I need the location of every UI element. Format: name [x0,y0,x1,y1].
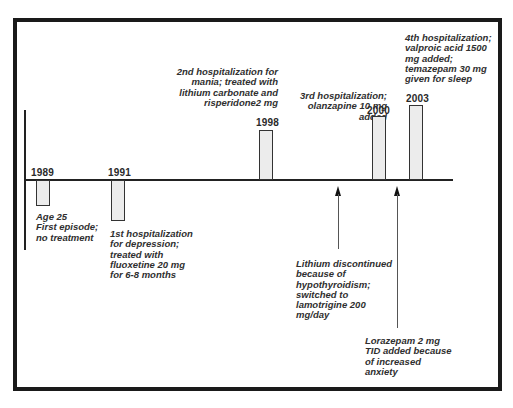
event-note-1991: 1st hospitalization for depression; trea… [110,229,193,280]
event-bar-2003 [409,105,423,180]
arrow-note-lorazepam: Lorazepam 2 mg TID added because of incr… [365,336,452,377]
timeline-axis [24,179,453,181]
arrow-shaft-lithium [338,194,339,249]
year-label-1998: 1998 [256,117,279,128]
year-label-2003: 2003 [406,93,429,104]
event-bar-1991 [111,180,125,221]
year-label-1989: 1989 [31,167,54,178]
event-note-1998: 2nd hospitalization for mania; treated w… [174,67,278,108]
event-note-2003: 4th hospitalization; valproic acid 1500 … [405,33,492,84]
event-note-1989: Age 25 First episode; no treatment [36,212,98,243]
event-bar-1998 [259,130,273,180]
year-label-2000: 2000 [367,105,390,116]
event-bar-1989 [36,180,50,206]
event-bar-2000 [372,116,386,180]
year-label-1991: 1991 [108,167,131,178]
arrow-shaft-lorazepam [397,194,398,328]
arrow-note-lithium-discontinued: Lithium discontinued because of hypothyr… [296,259,392,321]
